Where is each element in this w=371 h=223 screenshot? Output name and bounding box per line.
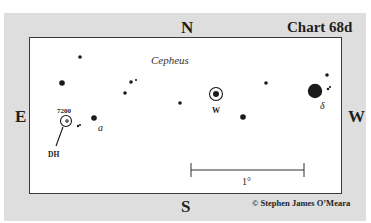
star xyxy=(77,125,79,127)
w-label: W xyxy=(212,106,220,115)
star xyxy=(135,79,137,81)
star xyxy=(327,88,330,91)
star-w-cephei xyxy=(213,91,219,97)
dh-leader-line xyxy=(56,127,63,146)
star xyxy=(329,86,331,88)
star xyxy=(78,55,82,59)
star-chart-graphic: W δ a 7200 DH 1° xyxy=(0,0,371,223)
dh-label: DH xyxy=(48,150,59,159)
ngc-label: 7200 xyxy=(57,107,72,115)
star xyxy=(325,73,329,77)
dh-marker-center xyxy=(66,120,68,122)
alpha-label: a xyxy=(98,122,103,133)
star xyxy=(240,114,246,120)
star-alpha xyxy=(91,115,97,121)
star xyxy=(79,124,81,126)
star xyxy=(129,80,133,84)
delta-label: δ xyxy=(320,100,325,111)
star xyxy=(264,81,268,85)
scale-bar-label: 1° xyxy=(242,176,251,187)
star xyxy=(59,80,65,86)
star-delta-cephei xyxy=(308,84,322,98)
star xyxy=(123,91,127,95)
star xyxy=(178,101,182,105)
